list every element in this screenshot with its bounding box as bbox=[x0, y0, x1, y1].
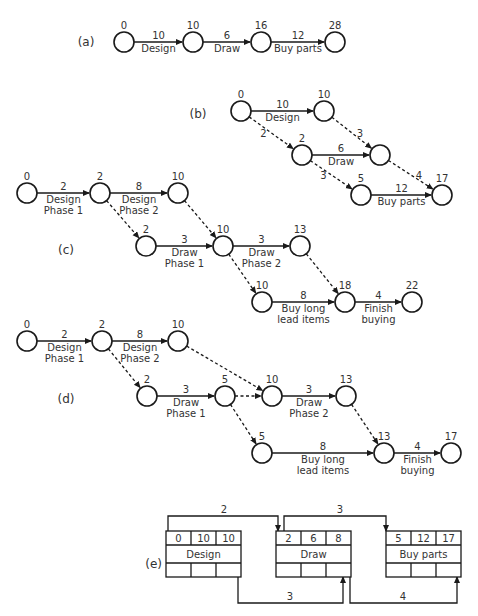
lag-label: 3 bbox=[337, 504, 343, 515]
part-label: (b) bbox=[190, 107, 207, 121]
event-time: 5 bbox=[259, 431, 265, 442]
activity-duration: 12 bbox=[395, 183, 408, 194]
event-node bbox=[290, 236, 310, 256]
network-part-b: (b)10Design236Draw3412Buy parts0102517 bbox=[190, 89, 452, 207]
event-time: 10 bbox=[318, 89, 331, 100]
event-time: 2 bbox=[143, 224, 149, 235]
event-time: 2 bbox=[97, 171, 103, 182]
event-node bbox=[183, 32, 203, 52]
early-finish: 17 bbox=[442, 533, 455, 544]
activity-name: Draw bbox=[214, 43, 240, 54]
event-node bbox=[370, 145, 390, 165]
activity-duration: 4 bbox=[414, 441, 420, 452]
dummy-activity-arrow bbox=[352, 404, 378, 444]
event-time: 10 bbox=[187, 20, 200, 31]
part-label: (e) bbox=[145, 557, 162, 571]
event-time: 0 bbox=[121, 20, 127, 31]
activity-duration: 12 bbox=[292, 30, 305, 41]
event-node bbox=[114, 32, 134, 52]
activity-name: Phase 2 bbox=[119, 205, 158, 216]
activity-name: Phase 1 bbox=[44, 205, 83, 216]
activity-name: Buy parts bbox=[274, 43, 322, 54]
activity-name: buying bbox=[400, 465, 434, 476]
event-node bbox=[168, 183, 188, 203]
activity-duration: 2 bbox=[61, 329, 67, 340]
event-node bbox=[351, 185, 371, 205]
event-node bbox=[92, 331, 112, 351]
event-time: 10 bbox=[256, 280, 269, 291]
activity-duration: 2 bbox=[260, 128, 266, 139]
event-node bbox=[262, 386, 282, 406]
activity-name: Buy parts bbox=[399, 549, 447, 560]
dummy-activity-arrow bbox=[230, 404, 256, 443]
event-time: 10 bbox=[266, 374, 279, 385]
activity-duration: 8 bbox=[137, 329, 143, 340]
event-node bbox=[213, 236, 233, 256]
activity-name: Draw bbox=[171, 247, 197, 258]
activity-duration: 3 bbox=[306, 384, 312, 395]
activity-name: Draw bbox=[328, 156, 354, 167]
network-part-d: (d)2DesignPhase 18DesignPhase 23DrawPhas… bbox=[17, 319, 461, 476]
event-node bbox=[314, 101, 334, 121]
activity-name: Phase 2 bbox=[242, 258, 281, 269]
early-start: 2 bbox=[285, 533, 291, 544]
precedence-diagram-e: (e)233401010Design268Draw51217Buy parts bbox=[145, 504, 461, 603]
activity-name: Phase 1 bbox=[165, 258, 204, 269]
activity-duration: 3 bbox=[357, 128, 363, 139]
activity-duration: 4 bbox=[416, 170, 422, 181]
event-time: 17 bbox=[445, 431, 458, 442]
activity-box-e-design: 01010Design bbox=[166, 531, 241, 577]
activity-name: Draw bbox=[173, 397, 199, 408]
early-finish: 10 bbox=[222, 533, 235, 544]
activity-box-e-buy: 51217Buy parts bbox=[386, 531, 461, 577]
event-node bbox=[251, 32, 271, 52]
event-time: 0 bbox=[238, 89, 244, 100]
activity-name: Buy parts bbox=[377, 196, 425, 207]
network-diagram: (a)10Design6Draw12Buy parts0101628(b)10D… bbox=[0, 0, 478, 616]
activity-name: Design bbox=[141, 43, 176, 54]
event-time: 5 bbox=[358, 173, 364, 184]
event-node bbox=[292, 145, 312, 165]
activity-name: Design bbox=[186, 549, 221, 560]
precedence-link bbox=[284, 516, 386, 531]
event-time: 16 bbox=[255, 20, 268, 31]
event-node bbox=[17, 183, 37, 203]
duration: 10 bbox=[197, 533, 210, 544]
activity-duration: 6 bbox=[224, 30, 230, 41]
activity-on-arrow-networks: (a)10Design6Draw12Buy parts0101628(b)10D… bbox=[17, 20, 461, 476]
event-node bbox=[17, 331, 37, 351]
event-time: 13 bbox=[340, 374, 353, 385]
event-node bbox=[90, 183, 110, 203]
lag-label: 4 bbox=[400, 591, 406, 602]
activity-duration: 6 bbox=[338, 143, 344, 154]
early-finish: 8 bbox=[335, 533, 341, 544]
network-part-a: (a)10Design6Draw12Buy parts0101628 bbox=[78, 20, 345, 54]
early-start: 0 bbox=[175, 533, 181, 544]
activity-name: lead items bbox=[297, 465, 349, 476]
activity-duration: 8 bbox=[136, 181, 142, 192]
activity-name: Design bbox=[46, 194, 81, 205]
event-time: 22 bbox=[406, 280, 419, 291]
event-node bbox=[374, 443, 394, 463]
event-node bbox=[137, 386, 157, 406]
event-time: 17 bbox=[436, 173, 449, 184]
event-time: 13 bbox=[378, 431, 391, 442]
activity-name: buying bbox=[361, 314, 395, 325]
lag-label: 2 bbox=[221, 504, 227, 515]
activity-name: Buy long bbox=[282, 303, 326, 314]
event-time: 18 bbox=[339, 280, 352, 291]
event-node bbox=[215, 386, 235, 406]
activity-duration: 10 bbox=[152, 30, 165, 41]
activity-name: Design bbox=[123, 342, 158, 353]
activity-name: Draw bbox=[248, 247, 274, 258]
event-time: 10 bbox=[217, 224, 230, 235]
event-node bbox=[336, 386, 356, 406]
activity-duration: 4 bbox=[375, 290, 381, 301]
activity-duration: 3 bbox=[320, 170, 326, 181]
activity-name: Draw bbox=[296, 397, 322, 408]
activity-name: Phase 2 bbox=[120, 353, 159, 364]
activity-name: Design bbox=[122, 194, 157, 205]
event-node bbox=[252, 443, 272, 463]
activity-name: Phase 2 bbox=[289, 408, 328, 419]
part-label: (c) bbox=[58, 243, 74, 257]
